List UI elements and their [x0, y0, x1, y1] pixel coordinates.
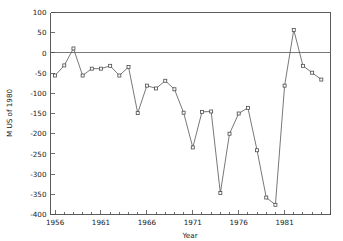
x-tick-label: 1976: [230, 218, 249, 227]
y-tick-label-group: 100500-50-100-150-200-250-300-350-400: [30, 8, 47, 219]
x-tick-label: 1956: [46, 218, 65, 227]
plot-frame: [51, 13, 331, 215]
y-tick-label: 50: [37, 28, 47, 37]
y-tick-label: 0: [42, 49, 47, 58]
x-tick-group: [55, 210, 285, 215]
y-tick-label: -350: [30, 190, 47, 199]
y-tick-label: -200: [30, 129, 47, 138]
data-point-marker: [127, 66, 130, 69]
data-point-marker: [72, 47, 75, 50]
y-tick-label: -100: [30, 89, 47, 98]
data-point-marker: [145, 84, 148, 87]
x-tick-label: 1961: [92, 218, 110, 227]
y-tick-group: [51, 13, 55, 215]
data-point-marker: [81, 74, 84, 77]
data-point-marker: [118, 74, 121, 77]
data-point-marker: [182, 111, 185, 114]
data-point-marker: [90, 67, 93, 70]
data-point-marker: [237, 112, 240, 115]
line-chart-svg: 100500-50-100-150-200-250-300-350-400 19…: [0, 0, 343, 241]
y-axis-title: M US of 1980: [5, 89, 14, 138]
data-point-marker: [219, 192, 222, 195]
data-point-marker: [63, 64, 66, 67]
chart-container: 100500-50-100-150-200-250-300-350-400 19…: [0, 0, 343, 241]
y-tick-label: -400: [30, 210, 47, 219]
y-tick-label: -300: [30, 170, 47, 179]
data-point-marker: [210, 110, 213, 113]
x-tick-label-group: 195619611966197119761981: [46, 218, 294, 227]
data-point-marker: [246, 106, 249, 109]
x-tick-label: 1981: [275, 218, 293, 227]
data-point-marker: [155, 87, 158, 90]
y-tick-label: -150: [30, 109, 47, 118]
data-point-marker: [265, 196, 268, 199]
data-point-marker: [54, 74, 57, 77]
data-point-marker: [228, 132, 231, 135]
data-point-marker: [274, 203, 277, 206]
data-point-marker: [292, 28, 295, 31]
data-point-marker: [311, 71, 314, 74]
data-point-marker: [320, 78, 323, 81]
x-tick-label: 1966: [138, 218, 157, 227]
y-tick-label: -50: [35, 69, 47, 78]
data-series-line: [55, 30, 321, 205]
x-axis-title: Year: [181, 231, 197, 240]
data-point-marker: [164, 79, 167, 82]
x-tick-label: 1971: [184, 218, 202, 227]
data-point-marker: [136, 112, 139, 115]
y-tick-label: -250: [30, 150, 47, 159]
data-point-marker: [301, 64, 304, 67]
y-tick-label: 100: [33, 8, 47, 17]
data-point-marker: [109, 64, 112, 67]
data-point-marker: [256, 149, 259, 152]
data-point-marker: [200, 110, 203, 113]
data-point-marker: [99, 67, 102, 70]
data-point-marker: [173, 88, 176, 91]
data-point-marker: [191, 146, 194, 149]
data-point-marker: [283, 84, 286, 87]
